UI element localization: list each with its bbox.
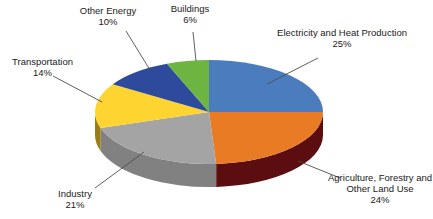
- slice-label-electricity: Electricity and Heat Production 25%: [275, 27, 409, 49]
- pie-slice-0: [209, 60, 323, 112]
- slice-label-pct: 14%: [0, 67, 90, 78]
- slice-label-other-energy: Other Energy 10%: [56, 5, 160, 27]
- slice-label-text: Other Energy: [56, 5, 160, 16]
- slice-label-buildings: Buildings 6%: [152, 3, 228, 25]
- slice-label-text: Industry: [35, 188, 115, 199]
- slice-label-transportation: Transportation 14%: [0, 56, 90, 78]
- slice-label-pct: 25%: [275, 38, 409, 49]
- slice-label-text: Buildings: [152, 3, 228, 14]
- slice-label-pct: 21%: [35, 199, 115, 210]
- slice-label-agriculture: Agriculture, Forestry and Other Land Use…: [327, 172, 433, 205]
- pie-chart: Electricity and Heat Production 25% Agri…: [0, 0, 433, 219]
- callout-line-other-energy: [126, 31, 150, 70]
- slice-label-industry: Industry 21%: [35, 188, 115, 210]
- slice-label-text: Transportation: [0, 56, 90, 67]
- callout-line-transportation: [53, 76, 102, 102]
- pie-tops: [95, 60, 323, 164]
- callout-line-buildings: [193, 32, 196, 61]
- slice-label-pct: 24%: [327, 194, 433, 205]
- slice-label-pct: 10%: [56, 16, 160, 27]
- slice-label-text: Electricity and Heat Production: [275, 27, 409, 38]
- slice-label-pct: 6%: [152, 14, 228, 25]
- slice-label-text: Agriculture, Forestry and Other Land Use: [327, 172, 433, 194]
